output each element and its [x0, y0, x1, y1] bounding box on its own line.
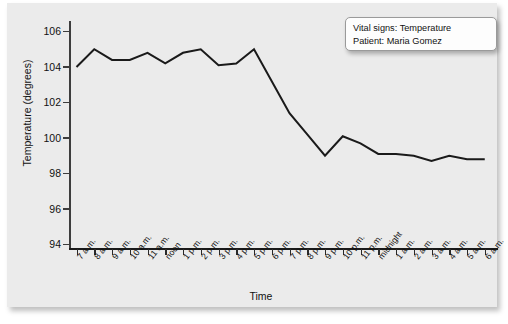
- y-tick-100: [63, 137, 69, 139]
- y-tick-label-94: 94: [21, 239, 61, 249]
- y-axis-title: Temperature (degrees): [21, 23, 33, 203]
- x-axis-title: Time: [7, 290, 508, 302]
- legend-box: Vital signs: Temperature Patient: Maria …: [345, 17, 497, 51]
- chart-panel: 106104102100989694 7 a.m.8 a.m.9 a.m.10 …: [7, 3, 497, 307]
- y-tick-98: [63, 173, 69, 175]
- temperature-line-series: [7, 3, 508, 324]
- y-tick-94: [63, 244, 69, 246]
- y-axis-line: [69, 21, 71, 249]
- y-tick-102: [63, 102, 69, 104]
- y-tick-label-96: 96: [21, 204, 61, 214]
- legend-line-patient: Patient: Maria Gomez: [353, 35, 496, 48]
- y-tick-96: [63, 208, 69, 210]
- legend-line-vital-signs: Vital signs: Temperature: [353, 22, 496, 35]
- temperature-polyline: [77, 49, 485, 161]
- y-tick-104: [63, 66, 69, 68]
- chart-screenshot: 106104102100989694 7 a.m.8 a.m.9 a.m.10 …: [0, 0, 508, 324]
- y-tick-106: [63, 31, 69, 33]
